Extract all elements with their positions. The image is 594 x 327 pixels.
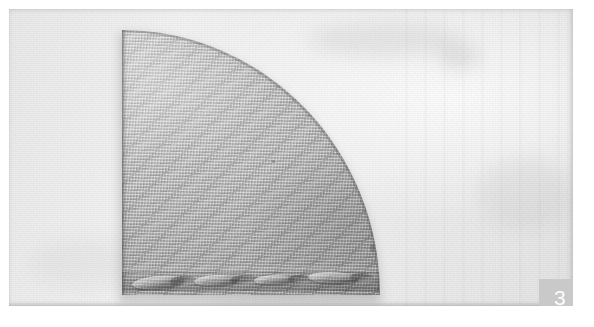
selvedge-speck (208, 31, 213, 34)
figure-photograph: 3 (9, 9, 573, 306)
fabric-fleck (272, 160, 275, 163)
selvedge-speck (370, 244, 375, 252)
paper-smudge (439, 43, 479, 69)
textile-specimen-group (113, 21, 383, 306)
selvedge-speck (371, 154, 375, 158)
paper-smudge (479, 159, 569, 229)
selvedge-speck (192, 32, 196, 35)
selvedge-speck (280, 46, 284, 50)
selvedge-speck (308, 61, 312, 65)
figure-number-badge: 3 (539, 279, 573, 306)
selvedge-speck (226, 33, 232, 36)
selvedge-speck (360, 122, 364, 125)
selvedge-speck (373, 226, 378, 236)
selvedge-speck (366, 138, 370, 143)
selvedge-speck (374, 170, 378, 176)
selvedge-speck (332, 82, 336, 86)
twisted-cord-hem (122, 261, 380, 295)
screenshot-root: 3 (0, 0, 594, 327)
selvedge-speck (294, 53, 299, 56)
selvedge-speck (375, 206, 380, 213)
selvedge-speck (182, 34, 185, 37)
straight-cut-edge (122, 30, 127, 295)
selvedge-speck (320, 71, 324, 74)
selvedge-speck (352, 108, 356, 112)
selvedge-speck (262, 40, 267, 43)
selvedge-speck (342, 94, 346, 97)
selvedge-speck (376, 188, 380, 193)
knitted-fabric-quarter-disc (122, 30, 380, 295)
figure-number-label: 3 (554, 287, 566, 307)
selvedge-speck (246, 36, 250, 39)
